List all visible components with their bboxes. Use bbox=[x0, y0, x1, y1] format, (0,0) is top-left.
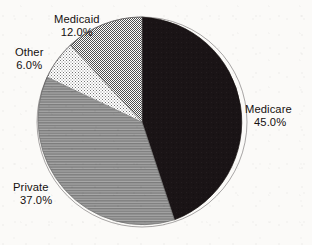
pie-label-medicare-value: 45.0% bbox=[245, 116, 292, 129]
pie-label-medicare: Medicare 45.0% bbox=[245, 103, 292, 130]
pie-label-other: Other 6.0% bbox=[15, 46, 43, 73]
pie-label-other-value: 6.0% bbox=[15, 59, 43, 72]
pie-label-medicaid-value: 12.0% bbox=[54, 26, 100, 39]
pie-label-other-name: Other bbox=[15, 46, 43, 59]
pie-label-private-name: Private bbox=[13, 181, 52, 194]
pie-label-private-value: 37.0% bbox=[13, 194, 52, 207]
pie-label-private: Private 37.0% bbox=[13, 181, 52, 208]
pie-label-medicaid: Medicaid 12.0% bbox=[54, 13, 100, 40]
pie-chart-figure: Medicaid 12.0% Other 6.0% Private 37.0% … bbox=[0, 0, 312, 245]
pie-label-medicare-name: Medicare bbox=[245, 103, 292, 116]
pie-label-medicaid-name: Medicaid bbox=[54, 13, 100, 26]
